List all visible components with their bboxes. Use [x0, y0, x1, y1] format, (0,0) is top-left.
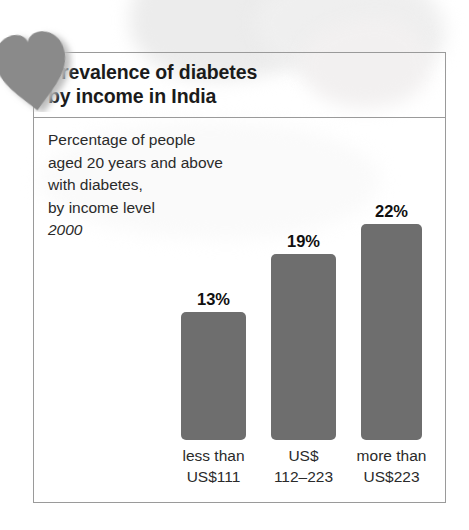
- page-title-line-2: by income in India: [48, 84, 445, 108]
- bar-category-label-0-line-2: US$111: [167, 466, 260, 487]
- bar-category-label-1: US$ 112–223: [257, 440, 350, 487]
- chart-card: Prevalence of diabetes by income in Indi…: [33, 52, 446, 503]
- bar-value-label-0: 13%: [181, 290, 246, 309]
- bar-category-label-2: more than US$223: [347, 440, 436, 487]
- bar-category-label-1-line-2: 112–223: [257, 466, 350, 487]
- heart-icon: [0, 12, 76, 112]
- bar-category-label-0-line-1: less than: [167, 445, 260, 466]
- page-title-line-1: Prevalence of diabetes: [48, 60, 445, 84]
- bar-rect-0: [181, 312, 246, 440]
- bar-value-label-2: 22%: [361, 202, 422, 221]
- chart-body: Percentage of people aged 20 years and a…: [34, 119, 445, 502]
- bar-category-label-2-line-1: more than: [347, 445, 436, 466]
- bar-chart-plot: 13% less than US$111 19% US$ 112–223 22%: [34, 119, 445, 502]
- bar-rect-2: [361, 224, 422, 440]
- bar-rect-1: [271, 254, 336, 440]
- bar-category-label-0: less than US$111: [167, 440, 260, 487]
- bar-category-label-2-line-2: US$223: [347, 466, 436, 487]
- bar-value-label-1: 19%: [271, 232, 336, 251]
- chart-title-box: Prevalence of diabetes by income in Indi…: [34, 53, 445, 118]
- bar-category-label-1-line-1: US$: [257, 445, 350, 466]
